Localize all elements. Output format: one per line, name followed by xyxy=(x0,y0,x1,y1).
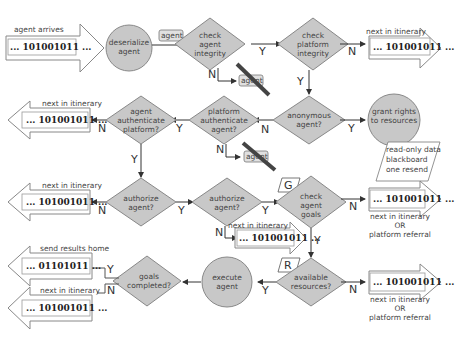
authorize-left-fail-binary: ... 101001011 ... xyxy=(26,197,107,207)
agent-packet-tag: agent xyxy=(161,31,183,40)
platform-fail-caption: next in itinerary xyxy=(366,27,426,36)
check-platform-node: check platform integrity xyxy=(289,31,337,58)
resources-fail-caption-line: OR xyxy=(360,304,440,313)
edge-label-n: N xyxy=(215,226,223,239)
authorize-left-fail-caption: next in itinerary xyxy=(42,181,102,190)
check-integrity-label: check agent integrity xyxy=(194,31,226,58)
edge-label-n: N xyxy=(107,284,115,297)
resources-fail-caption-line: next in itinerary xyxy=(360,295,440,304)
available-label: available resources? xyxy=(291,273,331,291)
goals-fail-binary: ... 101001011 ... xyxy=(373,194,454,204)
available-node: available resources? xyxy=(286,273,336,291)
deserialize-label: deserialize agent xyxy=(109,38,149,56)
resources-tag: R xyxy=(284,259,292,272)
flowchart: agent arrives ... 101001011 ... deserial… xyxy=(0,0,465,339)
goals-fail-caption-line: platform referral xyxy=(360,230,440,239)
grant-label: grant rights to resources xyxy=(371,107,417,125)
grant-node: grant rights to resources xyxy=(370,107,418,125)
deserialize-node: deserialize agent xyxy=(106,38,152,56)
authorize-mid-fail-caption: next in itinerary xyxy=(228,221,288,230)
goals-completed-node: goals completed? xyxy=(121,272,177,290)
goals-fail-caption-line: OR xyxy=(360,221,440,230)
authorize-left-node: authorize agent? xyxy=(118,194,164,212)
rejected-agent-tag-2: agent xyxy=(246,152,268,161)
resources-fail-caption-line: platform referral xyxy=(360,313,440,322)
edge-label-n: N xyxy=(216,143,224,156)
rejected-agent-tag-1: agent xyxy=(241,76,263,85)
authorize-mid-fail-binary: ... 101001011 ... xyxy=(239,233,320,243)
execute-node: execute agent xyxy=(205,273,249,291)
check-goals-label: check agent goals xyxy=(300,192,322,219)
edge-label-n: N xyxy=(349,200,357,213)
edge-label-n: N xyxy=(208,68,216,81)
edge-label-y: Y xyxy=(176,122,183,135)
edge-label-y: Y xyxy=(262,284,269,297)
edge-label-y: Y xyxy=(297,75,304,88)
edge-label-n: N xyxy=(349,283,357,296)
platform-auth-node: platform authenticate agent? xyxy=(198,107,250,134)
anonymous-label: anonymous agent? xyxy=(287,111,331,129)
resources-fail-caption: next in itinerary OR platform referral xyxy=(360,295,440,322)
grant-note-line: read-only data xyxy=(386,145,441,155)
goals-completed-label: goals completed? xyxy=(127,272,171,290)
agent-auth-fail-caption: next in itinerary xyxy=(42,99,102,108)
send-home-binary: ... 01101011 ... xyxy=(26,261,101,271)
edge-label-n: N xyxy=(261,123,269,136)
execute-label: execute agent xyxy=(212,273,242,291)
edge-label-y: Y xyxy=(178,204,185,217)
check-goals-node: check agent goals xyxy=(291,192,331,219)
goals-fail-caption-line: next in itinerary xyxy=(360,212,440,221)
goals-incomplete-binary: ... 101001011 ... xyxy=(26,303,107,313)
send-home-caption: send results home xyxy=(40,244,109,253)
edge-label-y: Y xyxy=(314,234,321,247)
grant-note-line: one resend xyxy=(386,165,441,175)
authorize-mid-label: authorize agent? xyxy=(209,194,244,212)
edge-label-y: Y xyxy=(262,204,269,217)
goals-fail-caption: next in itinerary OR platform referral xyxy=(360,212,440,239)
agent-auth-node: agent authenticate platform? xyxy=(115,107,167,134)
goals-incomplete-caption: next in itinerary xyxy=(40,286,100,295)
check-integrity-node: check agent integrity xyxy=(188,31,232,58)
authorize-left-label: authorize agent? xyxy=(123,194,158,212)
resources-fail-binary: ... 101001011 ... xyxy=(373,277,454,287)
platform-fail-binary: ... 101001011 ... xyxy=(373,42,454,52)
agent-auth-fail-binary: ... 101001011 ... xyxy=(26,115,107,125)
edge-label-y: Y xyxy=(348,122,355,135)
grant-note-line: blackboard xyxy=(386,155,441,165)
platform-auth-label: platform authenticate agent? xyxy=(200,107,248,134)
edge-label-y: Y xyxy=(259,45,266,58)
start-binary: ... 101001011 ... xyxy=(10,42,91,52)
start-caption: agent arrives xyxy=(14,25,64,34)
edge-label-n: N xyxy=(348,45,356,58)
anonymous-node: anonymous agent? xyxy=(287,111,331,129)
edge-label-y: Y xyxy=(131,153,138,166)
authorize-mid-node: authorize agent? xyxy=(204,194,250,212)
check-platform-label: check platform integrity xyxy=(297,31,329,58)
agent-auth-label: agent authenticate platform? xyxy=(117,107,165,134)
grant-note: read-only data blackboard one resend xyxy=(386,145,441,175)
goals-tag: G xyxy=(284,179,293,192)
edge-label-y: Y xyxy=(107,263,114,276)
